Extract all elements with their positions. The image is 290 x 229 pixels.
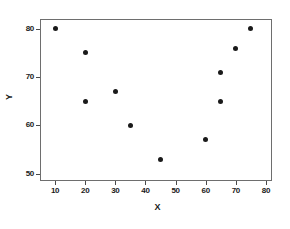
x-tick-mark — [115, 181, 116, 185]
x-tick-label: 40 — [133, 186, 157, 195]
x-tick-label: 30 — [103, 186, 127, 195]
x-tick-mark — [176, 181, 177, 185]
scatter-plot-figure: 1020304050607080 50607080 X Y — [0, 0, 290, 229]
x-axis-label-text: X — [154, 202, 160, 212]
y-tick-label: 80 — [10, 24, 34, 33]
plot-area — [40, 19, 272, 181]
y-tick-mark — [36, 77, 40, 78]
x-tick-mark — [236, 181, 237, 185]
x-tick-label: 20 — [73, 186, 97, 195]
y-tick-mark — [36, 174, 40, 175]
x-tick-mark — [145, 181, 146, 185]
data-point — [53, 26, 58, 31]
y-tick-label: 70 — [10, 72, 34, 81]
data-point — [128, 123, 133, 128]
x-tick-mark — [206, 181, 207, 185]
x-tick-label: 10 — [43, 186, 67, 195]
x-tick-label: 70 — [224, 186, 248, 195]
y-tick-mark — [36, 29, 40, 30]
x-tick-mark — [55, 181, 56, 185]
x-tick-label: 60 — [194, 186, 218, 195]
data-point — [218, 99, 223, 104]
data-point — [113, 89, 118, 94]
x-tick-mark — [85, 181, 86, 185]
x-axis-label: X — [0, 202, 290, 212]
y-tick-label: 50 — [10, 169, 34, 178]
data-point — [233, 46, 238, 51]
x-tick-label: 50 — [164, 186, 188, 195]
y-tick-mark — [36, 125, 40, 126]
x-tick-label: 80 — [254, 186, 278, 195]
x-tick-mark — [266, 181, 267, 185]
y-axis-label: Y — [4, 94, 14, 100]
y-tick-label: 60 — [10, 120, 34, 129]
data-point — [218, 70, 223, 75]
data-point — [83, 99, 88, 104]
data-point — [158, 157, 163, 162]
